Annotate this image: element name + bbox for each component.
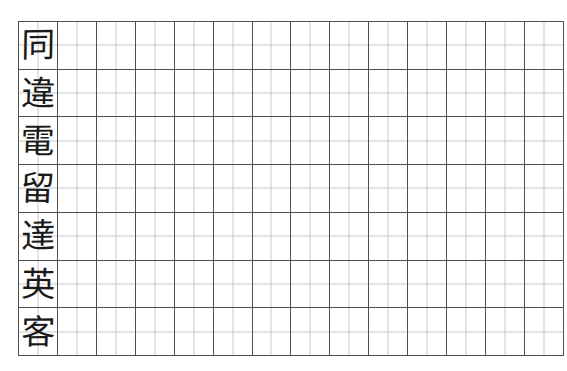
grid-cell-empty[interactable] <box>447 212 486 260</box>
grid-cell-empty[interactable] <box>408 117 447 165</box>
grid-cell-empty[interactable] <box>408 308 447 356</box>
grid-cell-empty[interactable] <box>96 69 135 117</box>
grid-cell-empty[interactable] <box>447 69 486 117</box>
grid-cell-empty[interactable] <box>330 260 369 308</box>
grid-cell-empty[interactable] <box>252 260 291 308</box>
grid-cell-empty[interactable] <box>213 260 252 308</box>
grid-cell-empty[interactable] <box>174 117 213 165</box>
grid-cell-empty[interactable] <box>291 22 330 70</box>
grid-cell-empty[interactable] <box>57 69 96 117</box>
grid-cell-empty[interactable] <box>524 260 563 308</box>
grid-cell-empty[interactable] <box>135 22 174 70</box>
grid-cell-empty[interactable] <box>174 22 213 70</box>
grid-cell-empty[interactable] <box>291 69 330 117</box>
grid-cell-empty[interactable] <box>213 117 252 165</box>
grid-cell-empty[interactable] <box>330 69 369 117</box>
grid-cell-empty[interactable] <box>447 117 486 165</box>
grid-cell-empty[interactable] <box>330 212 369 260</box>
grid-cell-empty[interactable] <box>57 212 96 260</box>
grid-cell-empty[interactable] <box>447 260 486 308</box>
grid-cell-empty[interactable] <box>330 117 369 165</box>
grid-cell-empty[interactable] <box>213 69 252 117</box>
grid-cell-empty[interactable] <box>408 260 447 308</box>
grid-cell-empty[interactable] <box>174 260 213 308</box>
grid-cell-empty[interactable] <box>447 22 486 70</box>
grid-cell-empty[interactable] <box>213 22 252 70</box>
grid-cell-empty[interactable] <box>57 308 96 356</box>
grid-cell-empty[interactable] <box>369 165 408 213</box>
grid-cell-empty[interactable] <box>369 308 408 356</box>
cell-vertical-guide <box>193 22 194 69</box>
grid-cell-written[interactable]: 違 <box>19 69 58 117</box>
grid-cell-empty[interactable] <box>174 165 213 213</box>
grid-cell-empty[interactable] <box>330 22 369 70</box>
grid-cell-written[interactable]: 同 <box>19 22 58 70</box>
grid-cell-empty[interactable] <box>447 165 486 213</box>
grid-cell-empty[interactable] <box>524 212 563 260</box>
grid-cell-empty[interactable] <box>135 308 174 356</box>
grid-cell-empty[interactable] <box>524 117 563 165</box>
grid-cell-empty[interactable] <box>135 117 174 165</box>
grid-cell-empty[interactable] <box>174 69 213 117</box>
grid-cell-empty[interactable] <box>96 260 135 308</box>
grid-cell-empty[interactable] <box>486 308 525 356</box>
grid-cell-empty[interactable] <box>96 212 135 260</box>
grid-cell-empty[interactable] <box>486 22 525 70</box>
grid-cell-empty[interactable] <box>291 117 330 165</box>
grid-cell-empty[interactable] <box>408 212 447 260</box>
grid-cell-empty[interactable] <box>524 308 563 356</box>
grid-cell-empty[interactable] <box>291 165 330 213</box>
grid-cell-written[interactable]: 電 <box>19 117 58 165</box>
grid-cell-empty[interactable] <box>486 117 525 165</box>
grid-cell-empty[interactable] <box>174 212 213 260</box>
grid-cell-empty[interactable] <box>369 69 408 117</box>
grid-cell-empty[interactable] <box>524 22 563 70</box>
grid-cell-empty[interactable] <box>524 165 563 213</box>
grid-cell-empty[interactable] <box>486 260 525 308</box>
grid-cell-empty[interactable] <box>330 308 369 356</box>
grid-cell-empty[interactable] <box>524 69 563 117</box>
grid-cell-empty[interactable] <box>486 69 525 117</box>
grid-cell-empty[interactable] <box>135 212 174 260</box>
grid-cell-empty[interactable] <box>252 69 291 117</box>
grid-cell-written[interactable]: 客 <box>19 308 58 356</box>
grid-cell-empty[interactable] <box>252 308 291 356</box>
grid-cell-empty[interactable] <box>369 117 408 165</box>
grid-cell-empty[interactable] <box>135 260 174 308</box>
grid-cell-empty[interactable] <box>96 308 135 356</box>
cell-vertical-guide <box>154 213 155 260</box>
grid-cell-empty[interactable] <box>369 22 408 70</box>
grid-cell-empty[interactable] <box>291 260 330 308</box>
grid-cell-empty[interactable] <box>291 308 330 356</box>
grid-cell-empty[interactable] <box>369 212 408 260</box>
grid-cell-empty[interactable] <box>174 308 213 356</box>
grid-cell-empty[interactable] <box>408 22 447 70</box>
grid-cell-empty[interactable] <box>252 117 291 165</box>
grid-cell-empty[interactable] <box>369 260 408 308</box>
grid-cell-empty[interactable] <box>252 212 291 260</box>
grid-cell-written[interactable]: 英 <box>19 260 58 308</box>
grid-cell-empty[interactable] <box>291 212 330 260</box>
grid-cell-empty[interactable] <box>447 308 486 356</box>
grid-cell-empty[interactable] <box>486 212 525 260</box>
grid-cell-empty[interactable] <box>213 165 252 213</box>
grid-cell-empty[interactable] <box>57 260 96 308</box>
grid-cell-empty[interactable] <box>96 117 135 165</box>
grid-cell-empty[interactable] <box>57 117 96 165</box>
grid-cell-written[interactable]: 留 <box>19 165 58 213</box>
grid-cell-empty[interactable] <box>252 22 291 70</box>
grid-cell-empty[interactable] <box>213 212 252 260</box>
grid-cell-empty[interactable] <box>57 165 96 213</box>
grid-cell-empty[interactable] <box>57 22 96 70</box>
grid-cell-empty[interactable] <box>330 165 369 213</box>
grid-cell-empty[interactable] <box>213 308 252 356</box>
grid-cell-empty[interactable] <box>408 69 447 117</box>
grid-cell-empty[interactable] <box>135 69 174 117</box>
grid-cell-empty[interactable] <box>135 165 174 213</box>
grid-cell-empty[interactable] <box>96 165 135 213</box>
grid-cell-written[interactable]: 達 <box>19 212 58 260</box>
grid-cell-empty[interactable] <box>408 165 447 213</box>
grid-cell-empty[interactable] <box>252 165 291 213</box>
grid-cell-empty[interactable] <box>96 22 135 70</box>
grid-cell-empty[interactable] <box>486 165 525 213</box>
